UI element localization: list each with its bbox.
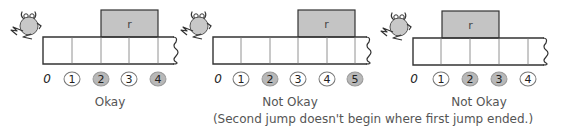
panel-not-okay-2: r [381,11,548,65]
jump-number-2: 2 [262,72,279,87]
squiggle-end-icon [366,37,371,64]
frog-icon [181,12,211,39]
jump-number-4: 4 [150,72,167,87]
frog-icon [381,13,411,40]
zero-label: 0 [410,72,418,86]
zero-label: 0 [43,72,51,86]
jump-number-1: 1 [64,72,81,87]
panel-okay: r [11,10,178,64]
jump-number-2: 2 [462,72,479,87]
r-label: r [324,18,329,31]
number-strip [213,37,371,64]
jump-number-4: 4 [319,72,336,87]
r-box: r [442,11,499,38]
caption-not-okay-2: Not Okay [451,95,506,109]
jump-number-5: 5 [347,72,364,87]
diagram-canvas: rrr [0,0,566,129]
squiggle-end-icon [173,37,178,64]
r-label: r [127,18,132,31]
r-box: r [298,10,355,37]
jump-number-1: 1 [233,72,250,87]
number-strip [43,37,178,64]
jump-number-2: 2 [93,72,110,87]
r-box: r [101,10,158,37]
jump-number-1: 1 [433,72,450,87]
jump-number-3: 3 [290,72,307,87]
explanation-note: (Second jump doesn't begin where first j… [213,112,533,126]
jump-number-3: 3 [121,72,138,87]
caption-not-okay-1: Not Okay [262,95,317,109]
number-strip [413,38,548,65]
squiggle-end-icon [543,38,548,65]
zero-label: 0 [214,72,222,86]
jump-number-4: 4 [520,72,537,87]
panel-not-okay-1: r [181,10,371,64]
r-label: r [468,19,473,32]
jump-number-3: 3 [491,72,508,87]
caption-okay: Okay [95,95,126,109]
frog-icon [11,12,41,39]
